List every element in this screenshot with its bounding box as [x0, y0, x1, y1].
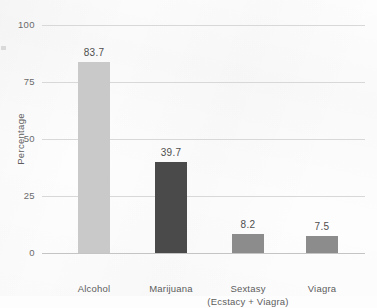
- x-axis-category-name: Sextasy: [230, 283, 265, 294]
- y-axis-tick-label: 0: [29, 247, 35, 258]
- bar[interactable]: [232, 234, 264, 253]
- x-axis-category-label: Viagra: [262, 283, 377, 296]
- bar-value-label: 83.7: [84, 47, 105, 58]
- y-axis-tick-label: 50: [24, 133, 35, 144]
- y-axis-tick-label: 75: [24, 76, 35, 87]
- x-axis-category-sublabel: (Ecstacy + Viagra): [188, 296, 308, 308]
- x-axis-category-name: Marijuana: [149, 283, 193, 294]
- bar[interactable]: [155, 162, 187, 253]
- x-axis-category-name: Alcohol: [78, 283, 111, 294]
- bar[interactable]: [306, 236, 338, 253]
- y-axis-tick-label: 25: [24, 190, 35, 201]
- bar-value-label: 7.5: [315, 221, 330, 232]
- axis-baseline: 0: [42, 253, 365, 254]
- y-axis-tick-label: 100: [18, 19, 35, 30]
- bar-group: 8.2: [232, 25, 264, 253]
- x-axis-category-name: Viagra: [308, 283, 337, 294]
- bar-value-label: 8.2: [241, 219, 256, 230]
- bar-group: 39.7: [155, 25, 187, 253]
- bar[interactable]: [78, 62, 110, 253]
- bar-group: 7.5: [306, 25, 338, 253]
- bar-value-label: 39.7: [161, 147, 182, 158]
- bar-group: 83.7: [78, 25, 110, 253]
- plot-area: 025507510083.7Alcohol39.7Marijuana8.2Sex…: [78, 25, 365, 253]
